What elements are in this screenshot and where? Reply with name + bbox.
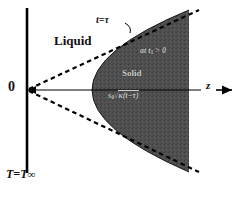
label-region-time: at t1 > 0 (140, 47, 166, 56)
label-origin: 0 (8, 80, 15, 94)
label-front-position-formula: s0√κ(t−τ) (108, 92, 139, 101)
label-region-time-prefix: at t (140, 46, 150, 55)
figure-canvas: Liquid t=τ 0 z T=T∞ at t1 > 0 Solid s0√κ… (0, 0, 240, 200)
label-boundary-temperature: T=T∞ (6, 168, 35, 180)
label-liquid: Liquid (54, 34, 92, 47)
label-t-equals-tau: t=τ (96, 15, 109, 25)
label-region-time-relation: > 0 (153, 46, 166, 55)
label-z-axis: z (206, 80, 210, 91)
formula-radicand: κ(t−τ) (118, 90, 138, 100)
tau-leader-line (125, 23, 130, 33)
label-Tinf-symbol: T (20, 167, 27, 181)
infinity-icon: ∞ (28, 168, 36, 180)
label-solid: Solid (122, 69, 142, 78)
